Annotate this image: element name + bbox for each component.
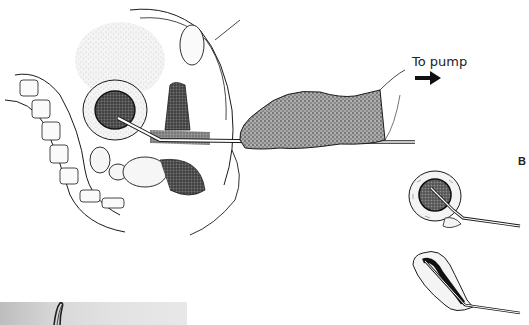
uterus-evacuated-detail (405, 245, 529, 325)
curved-instrument-image (40, 302, 70, 325)
panel-b-label: B (518, 155, 526, 167)
anatomy-sagittal-illustration (0, 0, 420, 240)
instrument-photo (0, 302, 187, 325)
arrow-right-icon (414, 70, 442, 86)
to-pump-label: To pump (412, 54, 467, 69)
uterus-filled-detail (405, 168, 529, 238)
